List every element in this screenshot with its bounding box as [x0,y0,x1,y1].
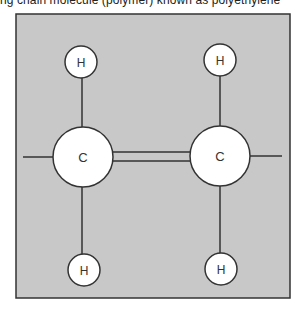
atom-label: C [215,149,224,164]
atom-h2: H [204,44,236,76]
atom-h4: H [205,253,237,285]
atom-label: H [217,263,226,277]
atom-label: H [216,54,225,68]
atom-label: H [77,56,86,70]
atom-c2: C [190,126,250,186]
atom-label: C [78,150,87,165]
atom-c1: C [53,127,113,187]
atom-h1: H [65,46,97,78]
molecule-diagram: C C H H H H [0,0,307,311]
atom-h3: H [68,254,100,286]
atom-label: H [80,264,89,278]
